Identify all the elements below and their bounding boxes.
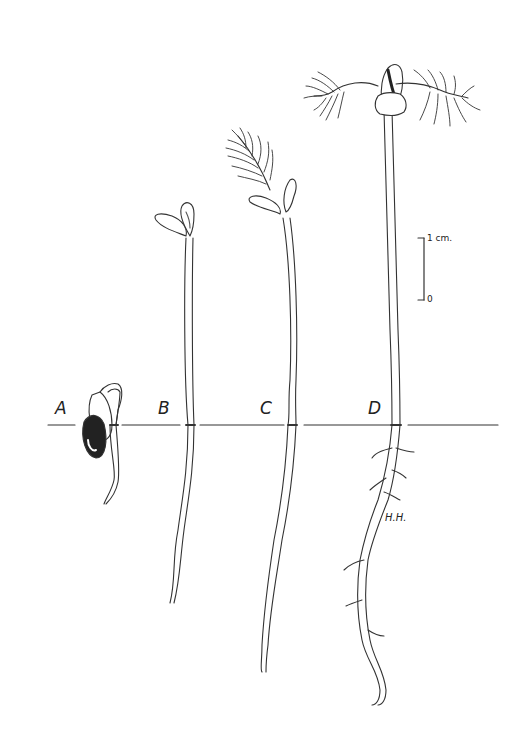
scale-top-label: 1 cm. <box>427 233 452 243</box>
artist-initials: H.H. <box>385 512 406 523</box>
stage-label-d: D <box>368 398 381 418</box>
seedling-d <box>304 65 480 705</box>
stage-label-b: B <box>158 398 170 418</box>
stage-label-c: C <box>260 398 272 418</box>
scale-bottom-label: 0 <box>427 294 433 304</box>
stage-label-a: A <box>55 398 67 418</box>
seedling-drawing <box>0 0 523 741</box>
seedling-illustration: A B C D 1 cm. 0 H.H. <box>0 0 523 741</box>
seedling-a <box>83 383 122 504</box>
scale-bar <box>418 238 424 300</box>
